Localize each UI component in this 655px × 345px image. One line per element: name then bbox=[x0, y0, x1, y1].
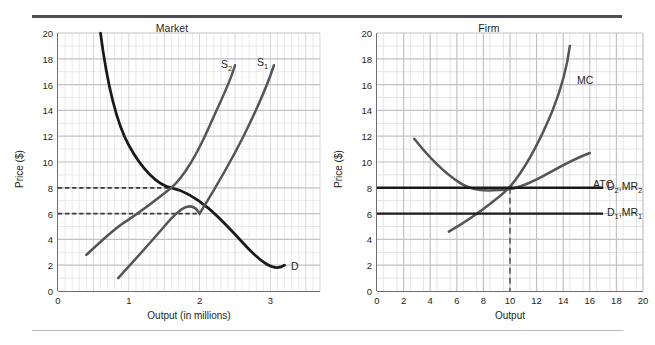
market-x-tick-labels: 0 1 2 3 bbox=[58, 295, 320, 311]
firm-y-tick-20: 20 bbox=[361, 28, 372, 39]
firm-y-tick-16: 16 bbox=[361, 79, 372, 90]
firm-y-tick-12: 12 bbox=[361, 131, 372, 142]
market-label-s2: S2 bbox=[221, 59, 232, 70]
market-y-tick-20: 20 bbox=[42, 28, 53, 39]
firm-y-tick-6: 6 bbox=[367, 208, 372, 219]
top-divider-rule bbox=[32, 15, 622, 18]
market-x-tick-3: 3 bbox=[268, 295, 273, 306]
market-y-tick-4: 4 bbox=[48, 234, 53, 245]
market-y-tick-18: 18 bbox=[42, 53, 53, 64]
firm-grid-and-curves bbox=[377, 33, 643, 291]
firm-x-tick-2: 2 bbox=[401, 295, 406, 306]
firm-x-tick-14: 14 bbox=[558, 295, 569, 306]
firm-y-tick-14: 14 bbox=[361, 105, 372, 116]
market-y-tick-16: 16 bbox=[42, 79, 53, 90]
firm-y-tick-10: 10 bbox=[361, 157, 372, 168]
market-plot-area: S2 S1 D bbox=[58, 33, 320, 291]
panel-market: Market Price ($) 20 18 16 14 12 10 8 6 4… bbox=[0, 22, 330, 322]
market-y-tick-12: 12 bbox=[42, 131, 53, 142]
firm-x-tick-16: 16 bbox=[585, 295, 596, 306]
firm-x-axis-title: Output bbox=[377, 310, 643, 321]
bottom-divider-rule bbox=[32, 330, 623, 331]
market-grid-and-curves bbox=[58, 33, 320, 291]
panel-firm: Firm Price ($) 20 18 16 14 12 10 8 6 4 2… bbox=[325, 22, 655, 322]
firm-y-tick-2: 2 bbox=[367, 260, 372, 271]
firm-x-tick-10: 10 bbox=[505, 295, 516, 306]
firm-x-tick-12: 12 bbox=[531, 295, 542, 306]
figure-market-and-firm: Market Price ($) 20 18 16 14 12 10 8 6 4… bbox=[0, 0, 655, 345]
market-label-s1: S1 bbox=[257, 57, 268, 68]
firm-x-tick-4: 4 bbox=[428, 295, 433, 306]
market-x-tick-0: 0 bbox=[55, 295, 60, 306]
firm-x-tick-6: 6 bbox=[454, 295, 459, 306]
firm-mc-curve bbox=[449, 46, 570, 232]
firm-x-tick-8: 8 bbox=[481, 295, 486, 306]
market-y-tick-14: 14 bbox=[42, 105, 53, 116]
firm-x-tick-0: 0 bbox=[374, 295, 379, 306]
market-y-axis-title: Price ($) bbox=[14, 150, 25, 188]
firm-y-tick-4: 4 bbox=[367, 234, 372, 245]
firm-y-axis-title: Price ($) bbox=[333, 150, 344, 188]
firm-label-d1-mr1: D1,MR1 bbox=[607, 207, 642, 218]
firm-x-tick-20: 20 bbox=[638, 295, 649, 306]
firm-y-tick-8: 8 bbox=[367, 182, 372, 193]
market-y-tick-8: 8 bbox=[48, 182, 53, 193]
firm-x-tick-18: 18 bbox=[611, 295, 622, 306]
firm-plot-area: MC ATC D2,MR2 D1,MR1 bbox=[377, 33, 643, 291]
market-label-d: D bbox=[291, 261, 299, 272]
firm-y-tick-0: 0 bbox=[367, 286, 372, 297]
market-y-tick-10: 10 bbox=[42, 157, 53, 168]
market-y-tick-2: 2 bbox=[48, 260, 53, 271]
firm-y-tick-labels: 20 18 16 14 12 10 8 6 4 2 0 bbox=[345, 33, 372, 291]
firm-label-d2-mr2: D2,MR2 bbox=[607, 181, 642, 192]
firm-y-tick-18: 18 bbox=[361, 53, 372, 64]
firm-label-mc: MC bbox=[577, 75, 593, 86]
market-y-tick-labels: 20 18 16 14 12 10 8 6 4 2 0 bbox=[26, 33, 53, 291]
firm-x-tick-labels: 0 2 4 6 8 10 12 14 16 18 20 bbox=[377, 295, 643, 311]
market-y-tick-6: 6 bbox=[48, 208, 53, 219]
market-x-axis-title: Output (in millions) bbox=[58, 310, 320, 321]
market-x-tick-2: 2 bbox=[197, 295, 202, 306]
market-x-tick-1: 1 bbox=[126, 295, 131, 306]
market-y-tick-0: 0 bbox=[48, 286, 53, 297]
